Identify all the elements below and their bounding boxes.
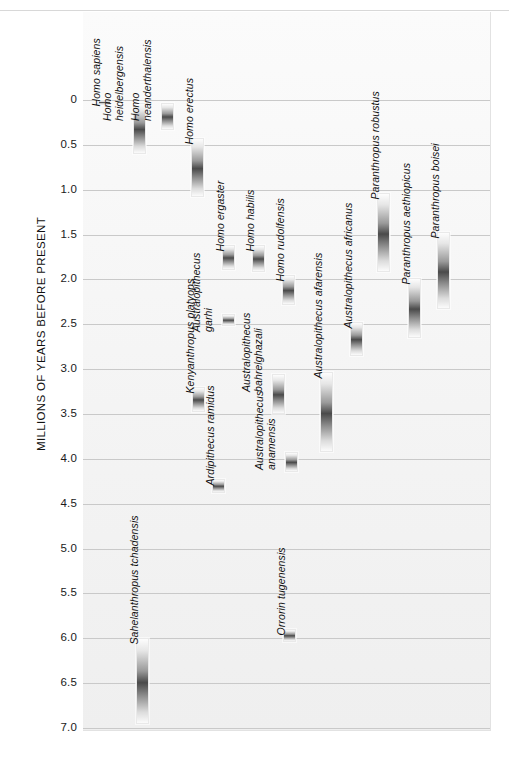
gridline: [83, 728, 490, 729]
species-range-bar: [222, 314, 235, 327]
species-label: Australopithecus afarensis: [312, 118, 324, 378]
species-range-bar: [320, 372, 333, 452]
species-range-bar: [408, 278, 421, 338]
species-label: Homo neanderthalensis: [130, 0, 153, 121]
gridline: [83, 324, 490, 325]
species-label: Homo ergaster: [214, 0, 226, 252]
species-label: Orrorin tugenensis: [275, 376, 287, 636]
species-range-bar: [136, 638, 149, 723]
y-tick-label: 5.0: [60, 542, 77, 554]
species-label: Paranthropus aethiopicus: [400, 24, 412, 284]
species-label: Australopithecus anamensis: [254, 210, 277, 470]
y-tick-label: 1.0: [60, 183, 77, 195]
species-label: Homo sapiens: [90, 0, 102, 107]
y-tick-label: 6.0: [60, 631, 77, 643]
species-range-bar: [161, 103, 174, 130]
gridline: [83, 369, 490, 370]
species-range-bar: [377, 193, 390, 272]
y-tick-label: 2.0: [60, 272, 77, 284]
species-label: Paranthropus boisei: [429, 0, 441, 238]
y-tick-label: 7.0: [60, 721, 77, 733]
y-axis-label: MILLIONS OF YEARS BEFORE PRESENT: [35, 221, 47, 451]
y-tick-label: 5.5: [60, 586, 77, 598]
hominin-timeline-figure: MILLIONS OF YEARS BEFORE PRESENT 00.51.0…: [0, 0, 509, 758]
y-tick-label: 3.5: [60, 407, 77, 419]
y-tick-label: 4.0: [60, 452, 77, 464]
y-tick-label: 6.5: [60, 676, 77, 688]
y-tick-label: 3.0: [60, 362, 77, 374]
y-tick-label: 2.5: [60, 317, 77, 329]
y-tick-label: 4.5: [60, 497, 77, 509]
y-tick-label: 0: [70, 93, 77, 105]
y-tick-label: 0.5: [60, 138, 77, 150]
species-label: Paranthropus robustus: [369, 0, 381, 200]
species-label: Australopithecus africanus: [342, 68, 354, 328]
species-label: Homo heidelbergensis: [102, 0, 125, 121]
species-label: Sahelanthropus tchadensis: [128, 385, 140, 645]
y-tick-label: 1.5: [60, 228, 77, 240]
species-label: Ardipithecus ramidus: [204, 225, 216, 485]
species-range-bar: [437, 232, 450, 309]
